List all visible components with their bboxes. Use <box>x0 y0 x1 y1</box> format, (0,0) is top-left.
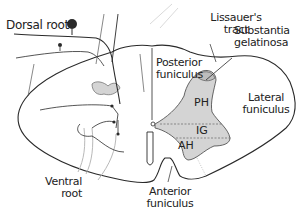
label-posterior-funiculus: Posterior funiculus <box>156 57 203 81</box>
central-canal <box>151 122 155 126</box>
label-posterior-horn: PH <box>194 96 209 109</box>
anterior-funiculus-leader <box>168 166 172 182</box>
label-anterior-funiculus: Anterior funiculus <box>140 186 200 210</box>
label-af-line2: funiculus <box>140 198 200 210</box>
label-lf-line2: funiculus <box>236 104 296 116</box>
label-dorsal-root: Dorsal root <box>6 19 69 31</box>
label-anterior-horn: AH <box>178 139 194 152</box>
label-lateral-funiculus: Lateral funiculus <box>236 92 296 116</box>
anterior-median-fissure <box>147 132 153 165</box>
label-pf-line2: funiculus <box>156 69 203 81</box>
label-intermediate-gray: IG <box>196 124 208 137</box>
label-sg-line2: gelatinosa <box>234 37 290 49</box>
label-ventral-root: Ventral root <box>40 176 82 200</box>
label-vr-line2: root <box>40 188 82 200</box>
afferent-cell-body <box>58 43 62 47</box>
label-substantia-gelatinosa: Substantia gelatinosa <box>234 25 290 49</box>
